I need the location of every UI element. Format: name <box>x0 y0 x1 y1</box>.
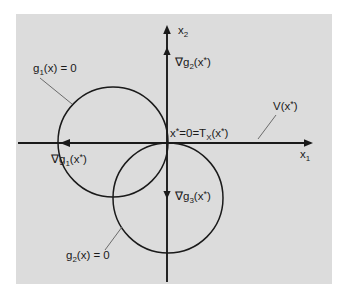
optimization-diagram: ∇g1(x*) ∇g2(x*) ∇g3(x*) g1(x) = 0 g2(x) … <box>0 0 348 298</box>
figure-container: ∇g1(x*) ∇g2(x*) ∇g3(x*) g1(x) = 0 g2(x) … <box>0 0 348 298</box>
diagram-panel <box>16 14 332 284</box>
tangent-cone-label: V(x*) <box>273 99 298 113</box>
